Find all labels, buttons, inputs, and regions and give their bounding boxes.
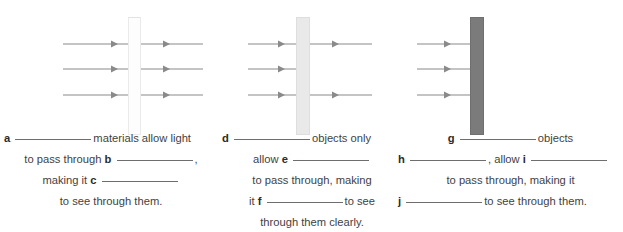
- caption-translucent: d objects onlyallow e to pass through, m…: [222, 128, 402, 232]
- caption-line: making it c: [4, 170, 218, 191]
- caption-text: to see through them.: [484, 195, 587, 207]
- caption-text: making it: [42, 174, 87, 186]
- caption-text: to see through them.: [60, 195, 163, 207]
- caption-text: , allow: [488, 153, 520, 165]
- answer-blank[interactable]: [531, 160, 607, 161]
- caption-text: through them clearly.: [260, 216, 364, 228]
- blank-label: f: [258, 195, 262, 207]
- ray-incoming-3: [417, 90, 471, 92]
- caption-row: a materials allow lightto pass through b…: [0, 128, 623, 232]
- answer-blank[interactable]: [410, 160, 486, 161]
- answer-blank[interactable]: [102, 181, 178, 182]
- answer-blank[interactable]: [293, 160, 369, 161]
- blank-label: e: [282, 153, 288, 165]
- caption-line: it f to see: [222, 191, 402, 212]
- blank-label: i: [523, 153, 526, 165]
- caption-text: to pass through, making: [252, 174, 371, 186]
- caption-transparent: a materials allow lightto pass through b…: [4, 128, 218, 212]
- caption-text: allow: [253, 153, 279, 165]
- answer-blank[interactable]: [267, 202, 343, 203]
- ray-incoming-2: [63, 64, 129, 66]
- blank-label: a: [4, 132, 10, 144]
- ray-incoming-1: [63, 39, 129, 41]
- ray-outgoing-3: [310, 90, 372, 92]
- blank-label: g: [448, 132, 455, 144]
- caption-text: objects only: [312, 132, 371, 144]
- blank-label: b: [105, 153, 112, 165]
- caption-text: to see: [345, 195, 375, 207]
- ray-outgoing-2: [141, 64, 203, 66]
- ray-incoming-3: [63, 90, 129, 92]
- panel-opaque: [410, 0, 610, 138]
- barrier-transparent: [128, 17, 141, 135]
- blank-label: h: [398, 153, 405, 165]
- caption-line: a materials allow light: [4, 128, 218, 149]
- ray-incoming-2-blocked: [248, 64, 298, 66]
- answer-blank[interactable]: [460, 139, 536, 140]
- caption-line: h , allow i: [398, 149, 623, 170]
- blank-label: j: [398, 195, 401, 207]
- answer-blank[interactable]: [15, 139, 91, 140]
- caption-text: to pass through: [24, 153, 101, 165]
- worksheet-page: a materials allow lightto pass through b…: [0, 0, 623, 232]
- caption-text: it: [249, 195, 255, 207]
- blank-label: d: [222, 132, 229, 144]
- caption-line: to pass through, making it: [398, 170, 623, 191]
- caption-line: to pass through, making: [222, 170, 402, 191]
- caption-line: to see through them.: [4, 191, 218, 212]
- barrier-opaque: [470, 17, 484, 135]
- answer-blank[interactable]: [117, 160, 193, 161]
- barrier-translucent: [296, 17, 310, 135]
- panel-transparent: [40, 0, 220, 138]
- ray-incoming-1: [417, 39, 471, 41]
- ray-incoming-2: [417, 64, 471, 66]
- ray-incoming-3: [248, 90, 298, 92]
- caption-opaque: g objectsh , allow i to pass through, ma…: [398, 128, 623, 212]
- light-transmission-diagram: [0, 0, 623, 138]
- caption-line: d objects only: [222, 128, 402, 149]
- caption-text: ,: [195, 153, 198, 165]
- caption-line: through them clearly.: [222, 212, 402, 232]
- caption-text: materials allow light: [93, 132, 191, 144]
- caption-line: allow e: [222, 149, 402, 170]
- panel-translucent: [240, 0, 405, 138]
- answer-blank[interactable]: [234, 139, 310, 140]
- ray-outgoing-3: [141, 90, 203, 92]
- caption-line: to pass through b ,: [4, 149, 218, 170]
- blank-label: c: [90, 174, 96, 186]
- caption-text: objects: [538, 132, 573, 144]
- ray-outgoing-1: [310, 39, 372, 41]
- caption-line: g objects: [398, 128, 623, 149]
- answer-blank[interactable]: [406, 202, 482, 203]
- caption-text: to pass through, making it: [446, 174, 574, 186]
- ray-outgoing-1: [141, 39, 203, 41]
- ray-incoming-1: [248, 39, 298, 41]
- caption-line: j to see through them.: [398, 191, 623, 212]
